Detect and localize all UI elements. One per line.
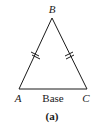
vertex-label-c: C — [82, 92, 90, 104]
triangle-abc — [19, 18, 87, 89]
triangle-diagram: B A C Base (a) — [0, 0, 102, 127]
figure-caption: (a) — [46, 110, 59, 123]
vertex-label-b: B — [49, 3, 56, 15]
vertex-label-a: A — [14, 92, 22, 104]
base-label: Base — [42, 92, 64, 104]
